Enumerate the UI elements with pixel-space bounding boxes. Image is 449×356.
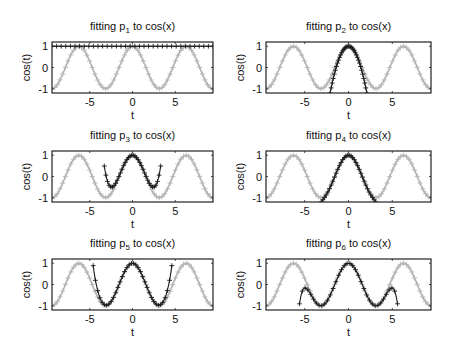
x-tick-label: -5 (300, 96, 310, 108)
x-tick-label: 5 (172, 205, 178, 217)
plot-area (263, 44, 433, 96)
plus-markers (263, 153, 433, 201)
plot-area (49, 44, 215, 92)
y-axis-label: cos(t) (234, 163, 246, 191)
subplot-title: fitting p1 to cos(x) (90, 20, 175, 35)
subplot-3: -505-101tcos(t)fitting p3 to cos(x) (20, 129, 216, 230)
y-tick-label: -1 (252, 83, 262, 95)
subplot-title: fitting p3 to cos(x) (90, 129, 175, 144)
x-tick-label: 0 (345, 205, 351, 217)
plot-area (49, 261, 215, 309)
reference-series (263, 153, 433, 201)
x-tick-label: 0 (129, 96, 135, 108)
subplot-2: -505-101tcos(t)fitting p2 to cos(x) (234, 20, 434, 121)
subplot-title: fitting p5 to cos(x) (90, 237, 175, 252)
y-tick-label: -1 (252, 192, 262, 204)
y-axis-label: cos(t) (20, 271, 32, 299)
y-axis-label: cos(t) (20, 163, 32, 191)
plus-markers (91, 261, 174, 308)
plus-markers (263, 44, 433, 92)
x-axis-label: t (347, 109, 350, 121)
subplot-title: fitting p2 to cos(x) (306, 20, 391, 35)
subplot-1: -505-101tcos(t)fitting p1 to cos(x) (20, 20, 216, 121)
x-tick-label: 0 (129, 313, 135, 325)
subplot-6: -505-101tcos(t)fitting p6 to cos(x) (234, 237, 434, 338)
y-tick-label: 1 (42, 149, 48, 161)
x-tick-label: 0 (129, 205, 135, 217)
y-tick-label: 1 (42, 40, 48, 52)
subplot-title: fitting p6 to cos(x) (306, 237, 391, 252)
y-tick-label: 1 (256, 257, 262, 269)
plus-markers (49, 153, 215, 201)
plus-markers (49, 44, 215, 92)
fit-series (317, 153, 380, 207)
subplot-title: fitting p4 to cos(x) (306, 129, 391, 144)
x-tick-label: 5 (172, 96, 178, 108)
reference-series (49, 44, 215, 92)
plus-markers (297, 261, 400, 308)
x-tick-label: 0 (345, 96, 351, 108)
y-tick-label: 1 (42, 257, 48, 269)
plus-markers (49, 261, 215, 309)
y-tick-label: -1 (38, 83, 48, 95)
y-axis-label: cos(t) (234, 271, 246, 299)
subplot-4: -505-101tcos(t)fitting p4 to cos(x) (234, 129, 434, 230)
x-axis-label: t (347, 326, 350, 338)
reference-series (263, 44, 433, 92)
y-tick-label: 1 (256, 40, 262, 52)
plus-markers (317, 153, 380, 207)
x-tick-label: 0 (345, 313, 351, 325)
x-axis-label: t (131, 109, 134, 121)
y-axis-label: cos(t) (234, 54, 246, 82)
x-tick-label: -5 (300, 205, 310, 217)
x-axis-label: t (131, 218, 134, 230)
x-axis-label: t (347, 218, 350, 230)
x-tick-label: -5 (85, 96, 95, 108)
reference-series (49, 261, 215, 309)
y-tick-label: -1 (252, 300, 262, 312)
x-tick-label: 5 (389, 205, 395, 217)
y-tick-label: 0 (42, 62, 48, 74)
plot-area (263, 261, 433, 309)
plus-markers (263, 261, 433, 309)
subplot-5: -505-101tcos(t)fitting p5 to cos(x) (20, 237, 216, 338)
fit-series (91, 261, 174, 308)
plot-area (263, 153, 433, 207)
y-tick-label: -1 (38, 192, 48, 204)
x-axis-label: t (131, 326, 134, 338)
x-tick-label: 5 (389, 96, 395, 108)
plus-markers (102, 153, 163, 190)
y-tick-label: -1 (38, 300, 48, 312)
y-axis-label: cos(t) (20, 54, 32, 82)
reference-series (49, 153, 215, 201)
x-tick-label: -5 (300, 313, 310, 325)
fit-series (102, 153, 163, 190)
x-tick-label: -5 (85, 313, 95, 325)
y-tick-label: 0 (256, 171, 262, 183)
y-tick-label: 1 (256, 149, 262, 161)
y-tick-label: 0 (42, 171, 48, 183)
y-tick-label: 0 (256, 62, 262, 74)
x-tick-label: -5 (85, 205, 95, 217)
fit-series (297, 261, 400, 308)
y-tick-label: 0 (256, 279, 262, 291)
reference-series (263, 261, 433, 309)
plot-area (49, 153, 215, 201)
figure: -505-101tcos(t)fitting p1 to cos(x)-505-… (0, 0, 449, 356)
y-tick-label: 0 (42, 279, 48, 291)
x-tick-label: 5 (389, 313, 395, 325)
x-tick-label: 5 (172, 313, 178, 325)
